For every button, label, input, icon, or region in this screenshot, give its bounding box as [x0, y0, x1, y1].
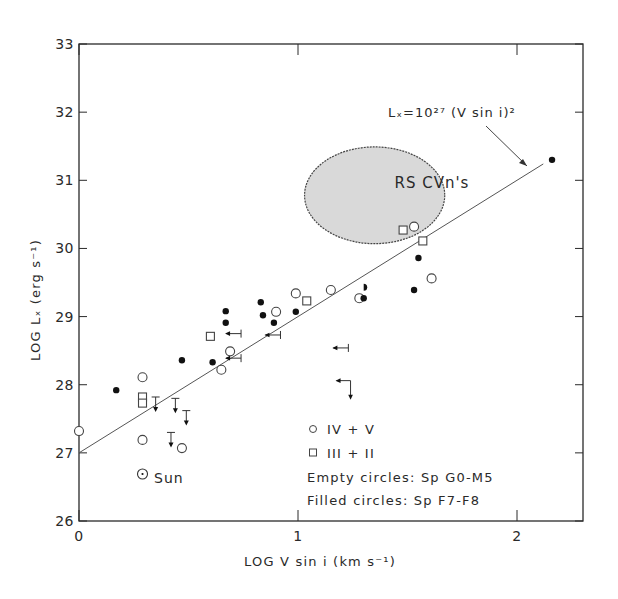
data-point [138, 435, 147, 444]
open-circle-marker [427, 274, 436, 283]
chart: 2627282930313233012 LOG Lₓ (erg s⁻¹) LOG… [0, 0, 618, 599]
data-point [303, 297, 311, 305]
legend: IV + V III + II Empty circles: Sp G0-M5 … [307, 422, 494, 508]
open-circle-marker [291, 289, 300, 298]
data-point [182, 411, 190, 426]
data-point [364, 284, 368, 291]
y-axis-title: LOG Lₓ (erg s⁻¹) [28, 239, 43, 361]
open-circle-marker [217, 365, 226, 374]
open-square-marker [206, 332, 214, 340]
data-point [139, 399, 147, 407]
filled-circle-marker [209, 359, 215, 365]
data-point [291, 289, 300, 298]
legend-entry-1: III + II [327, 446, 375, 461]
y-tick-label: 32 [55, 104, 74, 120]
filled-circle-marker [258, 299, 264, 305]
filled-circle-marker [293, 309, 299, 315]
data-point [415, 255, 421, 261]
filled-circle-marker [113, 387, 119, 393]
filled-circle-marker [411, 287, 417, 293]
x-tick-label: 0 [74, 528, 83, 544]
data-point [177, 444, 186, 453]
y-tick-label: 33 [55, 36, 74, 52]
down-arrowhead [184, 421, 189, 426]
down-arrowhead [173, 408, 178, 413]
data-point [75, 427, 84, 436]
left-arrowhead [225, 331, 230, 336]
y-tick-label: 29 [55, 309, 74, 325]
data-point [113, 387, 119, 393]
y-tick-label: 27 [55, 445, 74, 461]
sun-marker [138, 469, 148, 479]
filled-circle-marker [415, 255, 421, 261]
filled-circle-marker [223, 320, 229, 326]
filled-circle-marker [223, 308, 229, 314]
open-circle-marker [226, 347, 235, 356]
data-point [427, 274, 436, 283]
data-point [326, 286, 335, 295]
open-square-marker [399, 226, 407, 234]
data-point [260, 312, 266, 318]
data-point [399, 226, 407, 234]
sun-dot [141, 473, 143, 475]
open-square-marker [303, 297, 311, 305]
data-point [225, 330, 241, 338]
data-point [209, 359, 215, 365]
data-point [336, 378, 353, 399]
data-point [217, 365, 226, 374]
data-point [419, 237, 427, 245]
filled-circle-marker [260, 312, 266, 318]
region-label: RS CVn's [395, 174, 470, 192]
open-circle-marker [138, 373, 147, 382]
y-tick-label: 30 [55, 240, 74, 256]
data-point [271, 320, 277, 326]
legend-square-icon [310, 449, 317, 456]
legend-entry-2: Empty circles: Sp G0-M5 [307, 470, 494, 485]
x-axis-title: LOG V sin i (km s⁻¹) [244, 554, 396, 569]
data-point [223, 308, 229, 314]
data-point [411, 287, 417, 293]
open-square-marker [419, 237, 427, 245]
down-arrowhead [153, 407, 158, 412]
left-arrowhead [225, 356, 230, 361]
open-circle-marker [410, 222, 419, 231]
data-point [332, 344, 348, 352]
data-point [171, 398, 179, 413]
x-tick-label: 2 [512, 528, 521, 544]
data-point [152, 397, 160, 412]
open-circle-marker [272, 307, 281, 316]
open-circle-marker [326, 286, 335, 295]
rs-cvn-region [305, 147, 445, 244]
filled-circle-marker [361, 295, 367, 301]
y-tick-label: 26 [55, 513, 74, 529]
data-point [272, 307, 281, 316]
down-arrowhead [348, 395, 353, 400]
sun-label: Sun [154, 470, 184, 486]
data-point [361, 295, 367, 301]
filled-circle-marker [271, 320, 277, 326]
fit-annotation-arrow [486, 126, 527, 166]
data-point [258, 299, 264, 305]
open-square-marker [139, 399, 147, 407]
open-circle-marker [75, 427, 84, 436]
filled-circle-marker [549, 157, 555, 163]
left-arrowhead [332, 346, 337, 351]
data-point [167, 432, 175, 447]
down-arrowhead [168, 442, 173, 447]
open-circle-marker [177, 444, 186, 453]
data-point [410, 222, 419, 231]
data-point [223, 320, 229, 326]
x-tick-label: 1 [293, 528, 302, 544]
data-point [293, 309, 299, 315]
half-circle-marker [364, 284, 368, 291]
data-point [138, 373, 147, 382]
y-tick-label: 31 [55, 172, 74, 188]
data-point [179, 357, 185, 363]
left-arrowhead [336, 378, 341, 383]
legend-circle-icon [310, 426, 317, 433]
y-tick-label: 28 [55, 377, 74, 393]
fit-line-label: Lₓ=10²⁷ (V sin i)² [388, 105, 516, 120]
legend-entry-3: Filled circles: Sp F7-F8 [307, 493, 480, 508]
legend-entry-0: IV + V [327, 422, 375, 437]
data-point [226, 347, 235, 356]
